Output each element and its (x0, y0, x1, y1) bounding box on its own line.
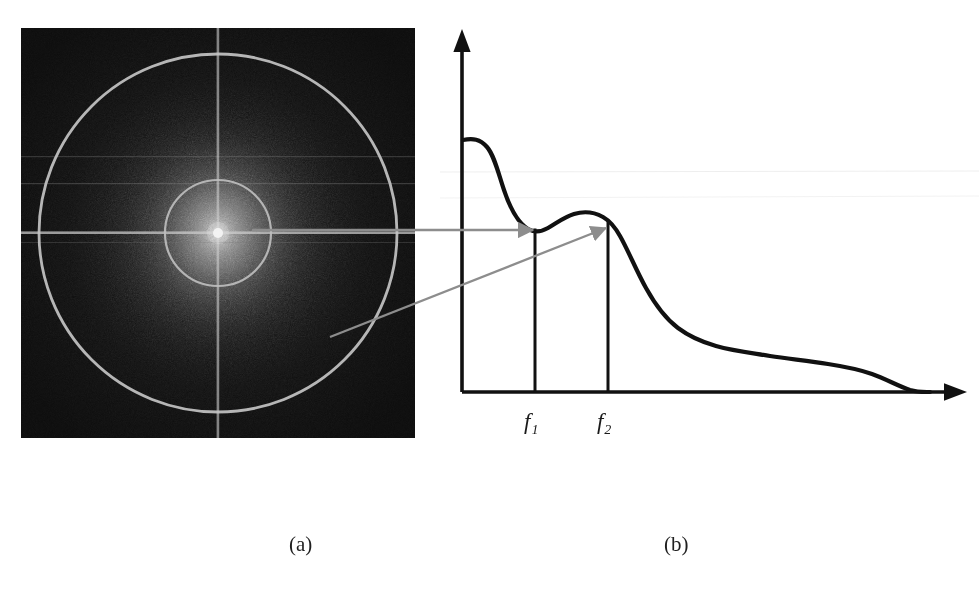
panel-b-caption: (b) (664, 534, 689, 555)
tick-label-f2: f₂ (597, 410, 611, 433)
tick-label-f1-base: f₁ (524, 409, 538, 434)
spectrum-svg (21, 28, 415, 438)
y-axis (453, 29, 470, 392)
spectrum-profile-curve (463, 139, 930, 392)
plot-svg (440, 20, 979, 440)
panel-a-caption: (a) (289, 534, 312, 555)
x-axis-arrowhead (944, 383, 967, 401)
scan-artifact-lines (440, 171, 979, 198)
spectral-profile-plot: f₁ f₂ (440, 20, 979, 440)
figure-root: f₁ f₂ (a) (b) (0, 0, 979, 600)
y-axis-arrowhead (453, 29, 470, 52)
tick-label-f1: f₁ (524, 410, 538, 433)
fourier-spectrum-image (21, 28, 415, 438)
tick-label-f2-base: f₂ (597, 409, 611, 434)
x-axis (462, 383, 967, 401)
